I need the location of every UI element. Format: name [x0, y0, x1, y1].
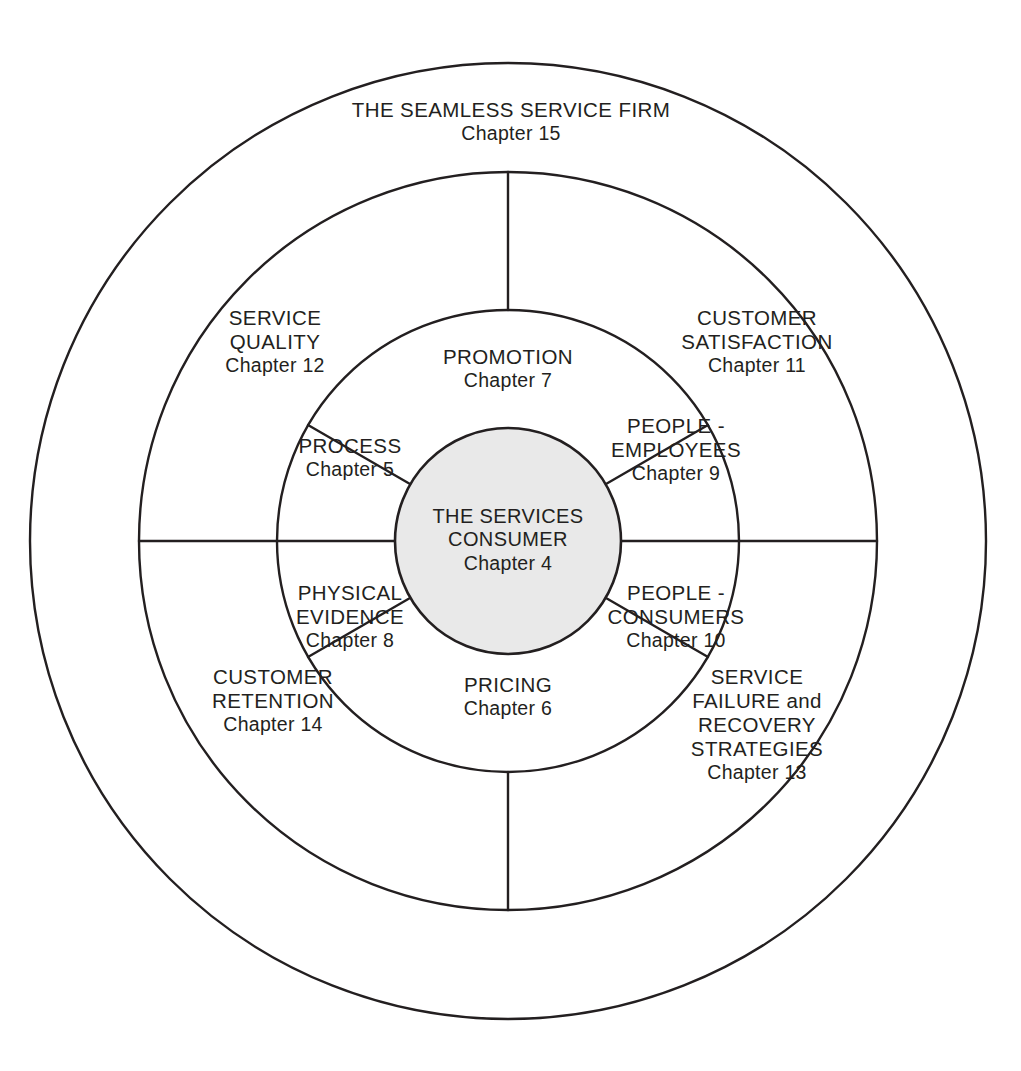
- label-line: STRATEGIES: [632, 737, 882, 761]
- label-chapter: Chapter 12: [160, 354, 390, 377]
- label-chapter: Chapter 4: [398, 552, 618, 575]
- label-chapter: Chapter 5: [252, 458, 448, 481]
- label-line: CONSUMERS: [576, 605, 776, 629]
- inner-ring-label-people-consumers: PEOPLE - CONSUMERS Chapter 10: [576, 581, 776, 652]
- label-line: FAILURE and: [632, 689, 882, 713]
- label-line: QUALITY: [160, 330, 390, 354]
- label-line: PRICING: [400, 673, 616, 697]
- label-line: EVIDENCE: [252, 605, 448, 629]
- label-chapter: Chapter 14: [148, 713, 398, 736]
- middle-ring-label-service-quality: SERVICE QUALITY Chapter 12: [160, 306, 390, 377]
- label-line: PROCESS: [252, 434, 448, 458]
- label-line: CONSUMER: [398, 528, 618, 551]
- concentric-diagram: THE SEAMLESS SERVICE FIRM Chapter 15 SER…: [0, 0, 1021, 1071]
- label-line: PEOPLE -: [576, 414, 776, 438]
- label-chapter: Chapter 6: [400, 697, 616, 720]
- inner-ring-label-people-employees: PEOPLE - EMPLOYEES Chapter 9: [576, 414, 776, 485]
- label-chapter: Chapter 8: [252, 629, 448, 652]
- label-chapter: Chapter 9: [576, 462, 776, 485]
- middle-ring-label-customer-satisfaction: CUSTOMER SATISFACTION Chapter 11: [632, 306, 882, 377]
- label-line: PHYSICAL: [252, 581, 448, 605]
- inner-ring-label-physical-evidence: PHYSICAL EVIDENCE Chapter 8: [252, 581, 448, 652]
- label-line: THE SERVICES: [398, 505, 618, 528]
- label-line: PEOPLE -: [576, 581, 776, 605]
- inner-ring-label-process: PROCESS Chapter 5: [252, 434, 448, 481]
- label-line: CUSTOMER: [632, 306, 882, 330]
- label-chapter: Chapter 13: [632, 761, 882, 784]
- middle-ring-label-service-failure-recovery: SERVICE FAILURE and RECOVERY STRATEGIES …: [632, 665, 882, 784]
- label-line: PROMOTION: [400, 345, 616, 369]
- label-line: SERVICE: [632, 665, 882, 689]
- label-line: EMPLOYEES: [576, 438, 776, 462]
- outer-ring-title: THE SEAMLESS SERVICE FIRM: [261, 98, 761, 122]
- label-chapter: Chapter 10: [576, 629, 776, 652]
- label-line: RETENTION: [148, 689, 398, 713]
- inner-ring-label-promotion: PROMOTION Chapter 7: [400, 345, 616, 392]
- label-line: SERVICE: [160, 306, 390, 330]
- label-line: CUSTOMER: [148, 665, 398, 689]
- label-chapter: Chapter 7: [400, 369, 616, 392]
- label-line: SATISFACTION: [632, 330, 882, 354]
- outer-ring-chapter: Chapter 15: [261, 122, 761, 145]
- inner-ring-label-pricing: PRICING Chapter 6: [400, 673, 616, 720]
- core-label-services-consumer: THE SERVICES CONSUMER Chapter 4: [398, 505, 618, 575]
- label-chapter: Chapter 11: [632, 354, 882, 377]
- outer-ring-label: THE SEAMLESS SERVICE FIRM Chapter 15: [261, 98, 761, 145]
- label-line: RECOVERY: [632, 713, 882, 737]
- middle-ring-label-customer-retention: CUSTOMER RETENTION Chapter 14: [148, 665, 398, 736]
